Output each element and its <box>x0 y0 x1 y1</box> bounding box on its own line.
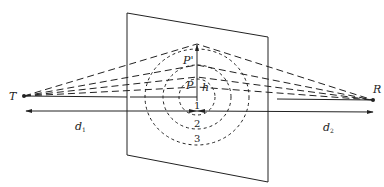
zone-1-label: 1 <box>194 100 200 111</box>
p-prime-label: P' <box>182 54 193 67</box>
receiver-dot <box>371 98 375 102</box>
distance-d2-subscript: 2 <box>330 127 334 134</box>
ray-via-p-prime <box>24 44 373 100</box>
fresnel-zone-diagram: T R P' P h 1 2 3 d 1 d 2 <box>0 0 384 187</box>
p-label: P <box>185 79 194 92</box>
propagation-paths <box>24 44 373 100</box>
distance-line-right <box>197 111 373 112</box>
direct-path <box>24 96 127 97</box>
receiver-label: R <box>372 83 381 96</box>
distance-d2-label: d <box>323 121 330 134</box>
zone-3-label: 3 <box>194 133 200 144</box>
transmitter-label: T <box>9 90 18 103</box>
ray-upper <box>24 65 373 100</box>
transmitter-dot <box>22 94 26 98</box>
distance-d1-subscript: 1 <box>82 126 86 133</box>
zone-2-label: 2 <box>194 118 200 129</box>
height-label: h <box>202 81 209 94</box>
distance-d1-label: d <box>75 120 82 133</box>
